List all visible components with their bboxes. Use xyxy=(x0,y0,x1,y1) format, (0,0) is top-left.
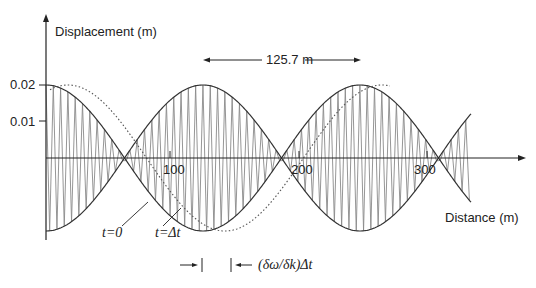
t0-label: t=0 xyxy=(102,225,122,241)
y-axis-label: Displacement (m) xyxy=(55,24,157,39)
plot-canvas xyxy=(0,0,536,288)
tdt-leader-line xyxy=(163,208,181,226)
wave-packet-diagram: Displacement (m) 0.02 0.01 100 200 300 1… xyxy=(0,0,536,288)
x-axis-label: Distance (m) xyxy=(445,210,519,225)
y-axis-arrow-icon xyxy=(43,14,49,22)
arrow-right-small-icon xyxy=(192,263,198,267)
arrow-right-icon xyxy=(354,58,361,63)
y-tick-label-002: 0.02 xyxy=(10,77,35,92)
t0-leader-line xyxy=(122,202,148,226)
x-axis-arrow-icon xyxy=(518,155,526,161)
group-shift-label: (δω/δk)Δt xyxy=(258,257,312,273)
arrow-left-icon xyxy=(203,58,210,63)
x-tick-label-200: 200 xyxy=(291,162,313,177)
x-tick-label-300: 300 xyxy=(414,162,436,177)
tdt-label: t=Δt xyxy=(155,225,180,241)
y-tick-label-001: 0.01 xyxy=(10,114,35,129)
wavelength-label: 125.7 m xyxy=(266,52,313,67)
x-tick-label-100: 100 xyxy=(163,162,185,177)
